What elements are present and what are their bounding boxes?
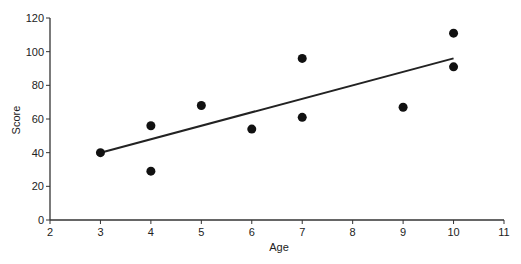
y-tick-label: 60: [32, 113, 44, 125]
x-tick-label: 10: [447, 226, 459, 238]
y-axis-label: Score: [10, 106, 22, 135]
y-tick-label: 20: [32, 180, 44, 192]
data-point: [146, 167, 155, 176]
y-tick-label: 100: [26, 46, 44, 58]
x-tick-label: 2: [47, 226, 53, 238]
data-points: [96, 29, 458, 176]
y-tick-label: 80: [32, 79, 44, 91]
data-point: [96, 148, 105, 157]
x-tick-label: 8: [350, 226, 356, 238]
x-axis-label: Age: [269, 241, 289, 253]
y-tick-label: 120: [26, 12, 44, 24]
x-tick-label: 4: [148, 226, 154, 238]
data-point: [197, 101, 206, 110]
data-point: [399, 103, 408, 112]
scatter-chart: 020406080100120234567891011 Age Score: [0, 0, 521, 264]
x-tick-label: 6: [249, 226, 255, 238]
data-point: [449, 62, 458, 71]
x-tick-label: 3: [97, 226, 103, 238]
x-tick-label: 9: [400, 226, 406, 238]
data-point: [247, 125, 256, 134]
axes: 020406080100120234567891011: [26, 12, 510, 238]
x-tick-label: 11: [498, 226, 509, 238]
y-tick-label: 40: [32, 147, 44, 159]
x-tick-label: 7: [299, 226, 305, 238]
data-point: [449, 29, 458, 38]
data-point: [146, 121, 155, 130]
x-tick-label: 5: [198, 226, 204, 238]
data-point: [298, 54, 307, 63]
y-tick-label: 0: [38, 214, 44, 226]
data-point: [298, 113, 307, 122]
